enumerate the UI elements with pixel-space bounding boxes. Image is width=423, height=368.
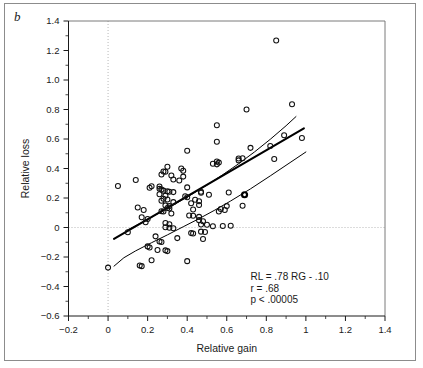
data-point — [133, 178, 138, 183]
data-point — [206, 192, 211, 197]
data-point — [139, 215, 144, 220]
data-point — [201, 237, 206, 242]
data-point — [157, 192, 162, 197]
gridlines-group — [69, 21, 386, 316]
x-axis-title: Relative gain — [196, 342, 257, 354]
data-point — [191, 207, 196, 212]
y-tick-label: 0 — [54, 222, 59, 233]
y-tick-label: 0.8 — [46, 104, 59, 115]
data-point — [214, 123, 219, 128]
statistic-text: r = .68 — [250, 283, 279, 294]
x-tick-label: 1.2 — [339, 324, 352, 335]
x-tick-label: 0 — [105, 324, 110, 335]
data-point — [204, 222, 209, 227]
statistic-text: p < .00005 — [250, 294, 298, 305]
y-tick-label: 0.2 — [46, 192, 59, 203]
y-tick-label: 1.4 — [46, 15, 59, 26]
data-point — [185, 148, 190, 153]
data-point — [135, 205, 140, 210]
y-tick-label: 1.0 — [46, 74, 59, 85]
x-tick-label: 1.4 — [378, 324, 391, 335]
data-point — [155, 247, 160, 252]
data-point — [175, 236, 180, 241]
y-tick-label: 0.6 — [46, 133, 59, 144]
y-tick-label: −0.6 — [41, 310, 60, 321]
lower-confidence-band — [114, 152, 306, 266]
y-axis-title: Relative loss — [19, 139, 31, 199]
data-point — [210, 224, 215, 229]
upper-confidence-band — [128, 117, 296, 230]
data-point — [274, 38, 279, 43]
y-tick-label: −0.4 — [41, 281, 60, 292]
data-point — [214, 139, 219, 144]
data-point — [115, 183, 120, 188]
data-points-group — [106, 38, 305, 270]
data-point — [185, 185, 190, 190]
data-point — [282, 133, 287, 138]
data-point — [290, 102, 295, 107]
y-tick-label: 0.4 — [46, 163, 59, 174]
data-point — [226, 190, 231, 195]
y-tick-label: 1.2 — [46, 45, 59, 56]
y-tick-label: −0.2 — [41, 251, 60, 262]
statistics-annotation-group: RL = .78 RG - .10r = .68p < .00005 — [250, 271, 329, 306]
data-point — [177, 178, 182, 183]
data-point — [248, 145, 253, 150]
data-point — [240, 203, 245, 208]
x-tick-label: 0.6 — [220, 324, 233, 335]
x-tick-label: −0.2 — [59, 324, 78, 335]
regression-line — [114, 128, 304, 238]
axis-tick-labels-group: −0.6−0.4−0.200.20.40.60.81.01.21.4−0.200… — [41, 15, 392, 335]
axis-ticks-group — [64, 21, 386, 321]
data-point — [149, 258, 154, 263]
plot-frame — [69, 21, 386, 316]
data-point — [272, 156, 277, 161]
x-tick-label: 0.4 — [181, 324, 194, 335]
data-point — [189, 201, 194, 206]
data-point — [141, 208, 146, 213]
scatter-plot: −0.6−0.4−0.200.20.40.60.81.01.21.4−0.200… — [0, 0, 423, 368]
data-point — [153, 234, 158, 239]
confidence-bands-group — [114, 117, 306, 267]
x-tick-label: 0.8 — [260, 324, 273, 335]
x-tick-label: 1 — [303, 324, 308, 335]
data-point — [181, 174, 186, 179]
statistic-text: RL = .78 RG - .10 — [250, 271, 329, 282]
data-point — [242, 192, 247, 197]
data-point — [185, 259, 190, 264]
data-point — [165, 164, 170, 169]
data-point — [220, 224, 225, 229]
figure-container: b −0.6−0.4−0.200.20.40.60.81.01.21.4−0.2… — [0, 0, 423, 368]
data-point — [299, 135, 304, 140]
data-point — [169, 211, 174, 216]
regression-line-group — [114, 128, 304, 238]
data-point — [244, 107, 249, 112]
x-tick-label: 0.2 — [141, 324, 154, 335]
